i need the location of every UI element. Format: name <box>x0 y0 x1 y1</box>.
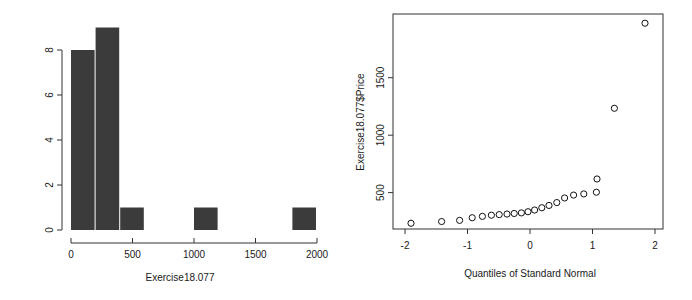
qq-x-tick-2: 2 <box>652 240 658 251</box>
qq-plot-svg: 500 1000 1500 Exercise18.077$Price -2 -1… <box>346 0 692 300</box>
qq-x-tick-neg1: -1 <box>463 240 472 251</box>
hist-y-tick-0: 0 <box>44 227 55 233</box>
qq-plot-panel: 500 1000 1500 Exercise18.077$Price -2 -1… <box>346 0 692 300</box>
qq-point <box>525 209 531 215</box>
qq-point <box>439 218 445 224</box>
hist-y-tick-2: 2 <box>44 182 55 188</box>
qq-point <box>594 176 600 182</box>
qq-point <box>642 20 648 26</box>
qq-point <box>408 220 414 226</box>
hist-x-tick-2000: 2000 <box>306 249 329 260</box>
qq-point <box>611 105 617 111</box>
histogram-bars <box>71 28 316 231</box>
qq-y-axis-title: Exercise18.077$Price <box>355 73 366 171</box>
qq-point <box>593 189 599 195</box>
histogram-bar <box>292 208 316 231</box>
figure-canvas: 0 2 4 6 8 0 500 1000 1500 2000 <box>0 0 692 300</box>
hist-x-tick-1000: 1000 <box>183 249 206 260</box>
qq-x-tick-neg2: -2 <box>401 240 410 251</box>
qq-point <box>554 199 560 205</box>
histogram-bar <box>194 208 218 231</box>
qq-point <box>504 211 510 217</box>
qq-point <box>457 217 463 223</box>
hist-y-tick-6: 6 <box>44 92 55 98</box>
qq-y-axis: 500 1000 1500 Exercise18.077$Price <box>355 66 393 201</box>
hist-y-tick-4: 4 <box>44 137 55 143</box>
hist-x-tick-500: 500 <box>124 249 141 260</box>
qq-y-tick-1000: 1000 <box>375 124 386 147</box>
qq-data-points <box>408 20 648 226</box>
qq-point <box>488 212 494 218</box>
hist-y-tick-8: 8 <box>44 47 55 53</box>
qq-point <box>539 205 545 211</box>
qq-plot-frame <box>393 14 663 229</box>
hist-x-tick-0: 0 <box>68 249 74 260</box>
histogram-bar <box>120 208 144 231</box>
qq-point <box>469 215 475 221</box>
qq-point <box>479 213 485 219</box>
histogram-panel: 0 2 4 6 8 0 500 1000 1500 2000 <box>0 0 346 300</box>
qq-point <box>532 207 538 213</box>
histogram-x-axis-title: Exercise18.077 <box>146 272 215 283</box>
qq-x-axis: -2 -1 0 1 2 <box>401 229 659 251</box>
qq-point <box>562 195 568 201</box>
qq-point <box>581 191 587 197</box>
qq-point <box>518 210 524 216</box>
qq-x-tick-0: 0 <box>527 240 533 251</box>
qq-x-tick-1: 1 <box>590 240 596 251</box>
qq-point <box>546 202 552 208</box>
histogram-y-axis: 0 2 4 6 8 <box>44 47 62 233</box>
histogram-svg: 0 2 4 6 8 0 500 1000 1500 2000 <box>0 0 346 300</box>
qq-x-axis-title: Quantiles of Standard Normal <box>464 268 596 279</box>
qq-y-tick-500: 500 <box>375 184 386 201</box>
hist-x-tick-1500: 1500 <box>244 249 267 260</box>
qq-point <box>496 212 502 218</box>
histogram-bar <box>71 50 95 230</box>
qq-point <box>571 192 577 198</box>
qq-y-tick-1500: 1500 <box>375 66 386 89</box>
histogram-x-axis: 0 500 1000 1500 2000 <box>68 238 328 260</box>
qq-point <box>511 210 517 216</box>
histogram-bar <box>96 28 120 231</box>
